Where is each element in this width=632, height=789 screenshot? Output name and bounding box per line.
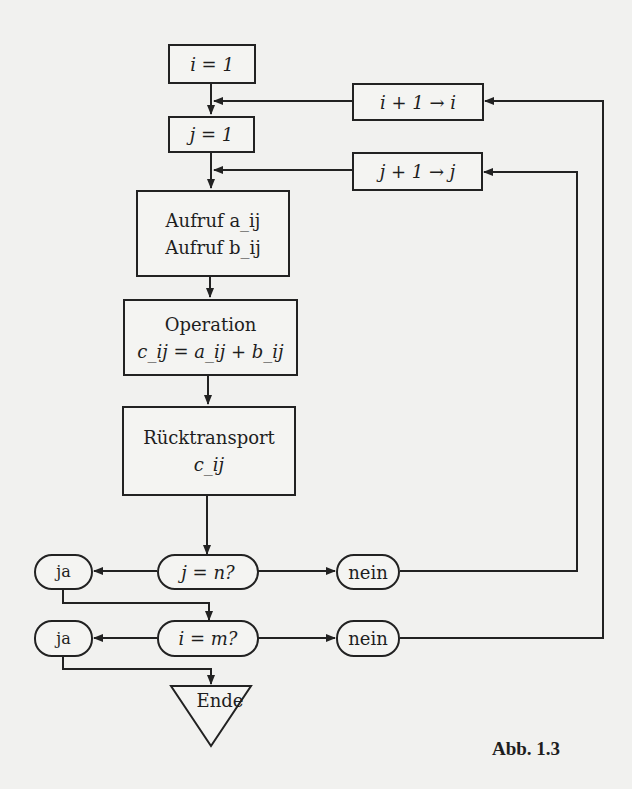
init-j-box: j = 1 <box>168 116 255 153</box>
operation-box: Operation c_ij = a_ij + b_ij <box>123 299 298 376</box>
test-i-no: nein <box>336 620 400 657</box>
end-label: Ende <box>188 690 252 711</box>
init-i-box: i = 1 <box>168 44 256 84</box>
connector-lines <box>0 0 632 789</box>
store-title: Rücktransport <box>143 424 275 451</box>
test-i-label: i = m? <box>178 625 237 652</box>
increment-j-label: j + 1 → j <box>380 158 456 185</box>
store-box: Rücktransport c_ij <box>122 406 296 496</box>
increment-i-label: i + 1 → i <box>380 89 456 116</box>
test-j-yes: ja <box>34 554 93 590</box>
fetch-line-b: Aufruf b_ij <box>165 234 261 261</box>
test-i-yes-label: ja <box>56 627 71 651</box>
test-j-no-label: nein <box>348 559 388 586</box>
fetch-line-a: Aufruf a_ij <box>166 207 261 234</box>
increment-i-box: i + 1 → i <box>352 83 484 121</box>
store-value: c_ij <box>194 451 224 478</box>
test-i-yes: ja <box>34 620 93 657</box>
increment-j-box: j + 1 → j <box>352 152 483 191</box>
test-i-no-label: nein <box>348 625 388 652</box>
fetch-box: Aufruf a_ij Aufruf b_ij <box>136 190 290 277</box>
test-j-label: j = n? <box>181 559 234 586</box>
test-j-no: nein <box>336 554 400 590</box>
init-i-label: i = 1 <box>190 51 234 78</box>
test-i-decision: i = m? <box>157 620 259 657</box>
operation-title: Operation <box>165 311 257 338</box>
test-j-decision: j = n? <box>157 554 259 590</box>
figure-caption: Abb. 1.3 <box>492 738 560 760</box>
init-j-label: j = 1 <box>190 121 234 148</box>
operation-formula: c_ij = a_ij + b_ij <box>137 338 283 365</box>
test-j-yes-label: ja <box>56 560 71 584</box>
